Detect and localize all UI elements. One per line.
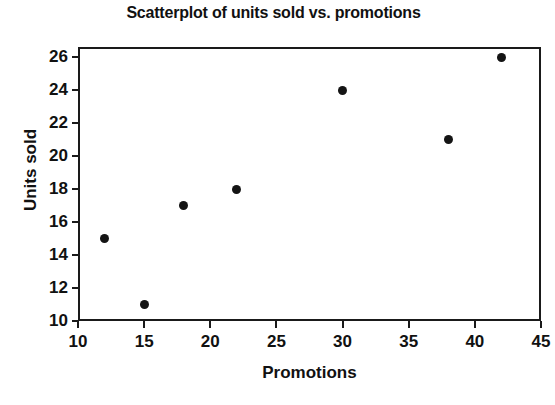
x-axis-label-text: Promotions xyxy=(78,363,541,383)
x-tick-label: 10 xyxy=(58,333,98,350)
x-tick-mark xyxy=(143,321,145,328)
x-tick-label: 25 xyxy=(256,333,296,350)
x-tick-label: 35 xyxy=(389,333,429,350)
y-tick-label: 12 xyxy=(28,279,68,296)
y-tick-label: 24 xyxy=(28,81,68,98)
y-tick-label: 10 xyxy=(28,312,68,329)
data-point xyxy=(338,86,347,95)
data-point xyxy=(497,53,506,62)
y-tick-label: 26 xyxy=(28,48,68,65)
y-tick-label: 16 xyxy=(28,213,68,230)
data-point xyxy=(179,201,188,210)
y-tick-label: 18 xyxy=(28,180,68,197)
x-tick-mark xyxy=(474,321,476,328)
y-tick-label: 22 xyxy=(28,114,68,131)
x-tick-label: 40 xyxy=(455,333,495,350)
data-point xyxy=(444,135,453,144)
x-tick-label: 20 xyxy=(190,333,230,350)
y-tick-label: 14 xyxy=(28,246,68,263)
x-tick-mark xyxy=(209,321,211,328)
x-tick-label: 15 xyxy=(124,333,164,350)
x-tick-label: 45 xyxy=(521,333,555,350)
page-title: Scatterplot of units sold vs. promotions xyxy=(0,4,547,22)
x-tick-mark xyxy=(540,321,542,328)
y-tick-label: 20 xyxy=(28,147,68,164)
data-point xyxy=(232,185,241,194)
x-tick-mark xyxy=(408,321,410,328)
plot-area xyxy=(78,47,541,321)
data-point xyxy=(100,234,109,243)
x-tick-mark xyxy=(342,321,344,328)
x-tick-mark xyxy=(77,321,79,328)
data-point xyxy=(140,300,149,309)
x-tick-label: 30 xyxy=(323,333,363,350)
x-tick-mark xyxy=(275,321,277,328)
